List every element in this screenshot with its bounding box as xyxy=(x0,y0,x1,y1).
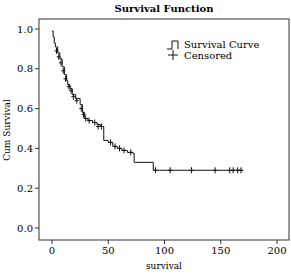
censor-mark xyxy=(239,167,243,173)
censor-mark xyxy=(109,139,113,145)
y-tick-label: 1.0 xyxy=(17,24,33,35)
censor-mark xyxy=(129,149,133,155)
y-axis-label: Cum Survival xyxy=(2,99,12,161)
y-tick-label: 0.0 xyxy=(17,223,33,234)
x-tick-label: 200 xyxy=(267,245,286,256)
censor-mark xyxy=(154,167,158,173)
survival-chart: Survival Function 0.00.20.40.60.81.0 050… xyxy=(0,0,291,276)
y-tick-label: 0.4 xyxy=(17,143,33,154)
censor-mark xyxy=(118,145,122,151)
legend-survival-curve: Survival Curve xyxy=(184,39,259,50)
censor-mark xyxy=(213,167,217,173)
censor-mark xyxy=(122,147,126,153)
legend-step-icon xyxy=(167,41,178,49)
x-tick-label: 0 xyxy=(49,245,55,256)
censor-mark xyxy=(113,143,117,149)
plot-frame xyxy=(39,19,289,240)
x-axis: 050100150200 xyxy=(49,240,287,256)
y-tick-label: 0.8 xyxy=(17,63,33,74)
y-tick-label: 0.2 xyxy=(17,183,33,194)
censor-mark xyxy=(231,167,235,173)
legend-censored: Censored xyxy=(184,50,233,61)
x-tick-label: 150 xyxy=(211,245,230,256)
chart-title: Survival Function xyxy=(115,3,215,14)
x-tick-label: 50 xyxy=(102,245,115,256)
x-axis-label: survival xyxy=(146,261,182,271)
censor-mark xyxy=(93,120,97,126)
y-tick-label: 0.6 xyxy=(17,103,33,114)
legend: Survival Curve Censored xyxy=(167,39,259,61)
x-tick-label: 100 xyxy=(155,245,174,256)
y-axis: 0.00.20.40.60.81.0 xyxy=(17,24,39,234)
censor-mark xyxy=(168,167,172,173)
legend-plus-icon xyxy=(168,50,178,60)
censor-mark xyxy=(190,167,194,173)
